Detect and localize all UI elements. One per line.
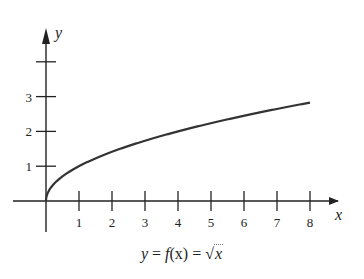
caption-equals-1: =: [148, 245, 165, 262]
y-tick-label: 2: [26, 124, 33, 139]
chart-caption: y = f(x) = √x: [0, 244, 364, 263]
x-tick-label: 8: [307, 215, 314, 230]
caption-x: x: [214, 244, 223, 263]
y-tick-label: 3: [26, 90, 33, 105]
x-tick-label: 1: [76, 215, 83, 230]
x-ticks: 12345678: [76, 191, 314, 230]
x-tick-label: 5: [208, 215, 215, 230]
sqrt-function-chart: 12345678 123 x y: [0, 0, 364, 279]
caption-arg: (x): [170, 245, 189, 262]
y-ticks: 123: [26, 62, 57, 174]
sqrt-curve: [46, 103, 310, 201]
caption-y: y: [141, 245, 148, 262]
x-tick-label: 7: [274, 215, 281, 230]
x-tick-label: 6: [241, 215, 248, 230]
y-tick-label: 1: [26, 159, 33, 174]
y-axis-label: y: [53, 24, 63, 42]
y-axis-arrow-icon: [42, 28, 50, 44]
radical-icon: √: [205, 245, 214, 262]
sqrt-expression: √x: [205, 244, 223, 263]
x-tick-label: 2: [109, 215, 116, 230]
x-axis-label: x: [334, 206, 342, 223]
x-tick-label: 4: [175, 215, 182, 230]
x-tick-label: 3: [142, 215, 149, 230]
caption-equals-2: =: [188, 245, 205, 262]
